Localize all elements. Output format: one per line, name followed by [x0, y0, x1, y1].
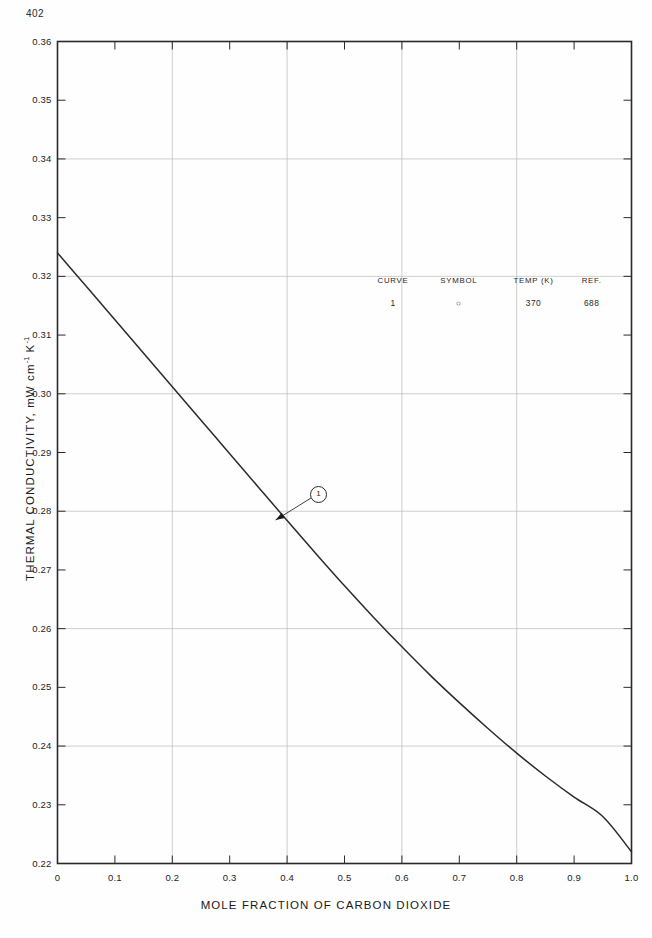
legend-row: 1○370688 [363, 298, 611, 308]
x-tick-label: 0.6 [385, 872, 419, 883]
data-curve [58, 253, 632, 852]
y-axis-title-text-mid: K [24, 344, 36, 357]
x-tick-label: 0.9 [557, 872, 591, 883]
legend-reference: 688 [572, 298, 611, 308]
y-tick-label: 0.22 [18, 858, 52, 869]
legend-header-row: CURVESYMBOLTEMP (K)REF. [363, 276, 611, 298]
y-axis-title: THERMAL CONDUCTIVITY, mW cm-1 K-1 [22, 289, 36, 629]
legend-header-3: REF. [572, 276, 611, 298]
y-tick-label: 0.35 [18, 94, 52, 105]
curve-callout-1: 1 [310, 486, 327, 503]
x-tick-label: 0.2 [155, 872, 189, 883]
figure-page: 402 0.220.230.240.250.260.270.280.290.30… [0, 0, 652, 938]
y-axis-title-exponent-2: -1 [22, 337, 31, 344]
curve-legend: CURVESYMBOLTEMP (K)REF. 1○370688 [363, 276, 611, 308]
callout-leader-line [276, 498, 311, 520]
plot-frame [58, 42, 632, 864]
y-axis-title-text: THERMAL CONDUCTIVITY, mW cm [24, 363, 36, 581]
legend-header-1: SYMBOL [423, 276, 495, 298]
y-axis-title-exponent-1: -1 [22, 357, 31, 364]
legend-temperature: 370 [495, 298, 573, 308]
y-tick-label: 0.24 [18, 740, 52, 751]
axis-ticks [58, 42, 632, 864]
y-tick-label: 0.23 [18, 799, 52, 810]
x-tick-label: 0.1 [98, 872, 132, 883]
legend-header-0: CURVE [363, 276, 423, 298]
x-tick-label: 1.0 [615, 872, 649, 883]
legend-symbol-icon: ○ [423, 298, 495, 308]
y-tick-label: 0.36 [18, 36, 52, 47]
y-tick-label: 0.33 [18, 212, 52, 223]
x-tick-label: 0 [41, 872, 75, 883]
x-tick-label: 0.3 [213, 872, 247, 883]
gridlines [58, 42, 632, 864]
x-tick-label: 0.8 [500, 872, 534, 883]
y-tick-label: 0.34 [18, 153, 52, 164]
legend-curve-number: 1 [363, 298, 423, 308]
plot-canvas [0, 0, 652, 938]
x-tick-label: 0.4 [270, 872, 304, 883]
legend-header-2: TEMP (K) [495, 276, 573, 298]
x-tick-label: 0.7 [442, 872, 476, 883]
y-tick-label: 0.25 [18, 681, 52, 692]
x-axis-title: MOLE FRACTION OF CARBON DIOXIDE [0, 899, 652, 911]
legend-table: CURVESYMBOLTEMP (K)REF. 1○370688 [363, 276, 611, 308]
y-tick-label: 0.32 [18, 270, 52, 281]
x-tick-label: 0.5 [328, 872, 362, 883]
legend-body: 1○370688 [363, 298, 611, 308]
thermal-conductivity-chart: 0.220.230.240.250.260.270.280.290.300.31… [0, 0, 652, 938]
